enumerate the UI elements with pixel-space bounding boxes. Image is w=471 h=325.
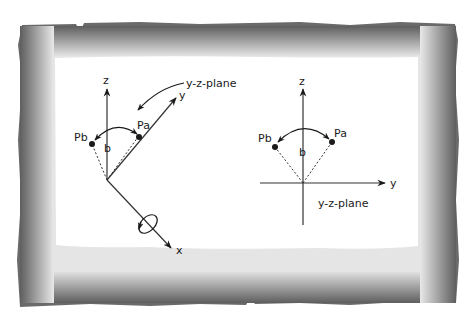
angle-label: b (299, 146, 306, 159)
point-pb (272, 144, 278, 150)
y-axis-label: y (390, 177, 397, 190)
point-pb-label: Pb (258, 132, 272, 145)
plane-label: y-z-plane (186, 77, 237, 90)
y-axis-label: y (179, 89, 186, 102)
point-pa-label: Pa (137, 119, 150, 132)
point-pb-label: Pb (74, 131, 88, 144)
z-axis-label: z (103, 74, 109, 87)
plane-label: y-z-plane (318, 197, 369, 210)
diagram-canvas: z y x Pb Pa b y-z-plane z y Pb Pa b y-z-… (0, 0, 471, 325)
point-pa-label: Pa (334, 127, 347, 140)
point-pa (136, 134, 142, 140)
angle-label: b (104, 142, 111, 155)
point-pb (89, 141, 95, 147)
z-axis-label: z (299, 75, 305, 88)
paper-frame (17, 22, 459, 307)
x-axis-label: x (176, 244, 183, 257)
